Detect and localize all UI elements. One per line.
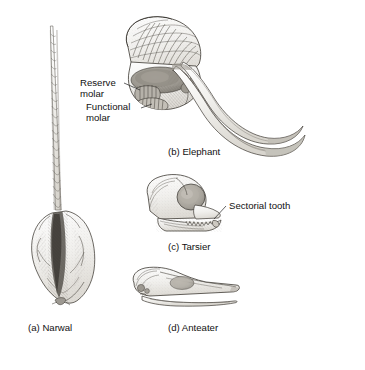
sectorial-tooth-label: Sectorial tooth xyxy=(229,200,290,211)
caption-tarsier: (c) Tarsier xyxy=(168,241,211,252)
caption-elephant: (b) Elephant xyxy=(168,146,221,157)
figure-canvas: (a) Narwal xyxy=(0,0,365,370)
caption-narwal: (a) Narwal xyxy=(28,322,72,333)
caption-anteater: (d) Anteater xyxy=(168,322,219,333)
functional-molar-line1: Functional xyxy=(86,101,130,112)
functional-molar-line2: molar xyxy=(86,112,111,123)
reserve-molar-line2: molar xyxy=(80,88,105,99)
reserve-molar-line1: Reserve xyxy=(80,77,116,88)
figure-root: (a) Narwal xyxy=(0,0,365,370)
